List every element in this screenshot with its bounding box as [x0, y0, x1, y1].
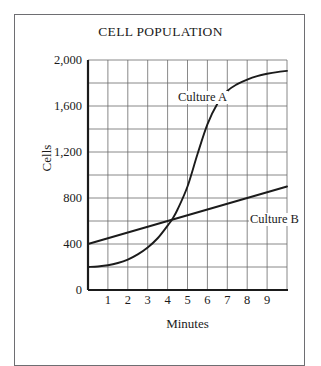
y-tick-label: 2,000	[54, 53, 82, 68]
x-tick-label: 2	[118, 293, 138, 308]
x-tick-label: 4	[158, 293, 178, 308]
y-tick-label: 400	[63, 237, 82, 252]
y-axis-title: Cells	[39, 128, 59, 188]
x-tick-label: 8	[237, 293, 257, 308]
x-tick-label: 6	[197, 293, 217, 308]
y-tick-label: 800	[63, 191, 82, 206]
y-tick-label: 0	[76, 283, 82, 298]
x-tick-label: 7	[217, 293, 237, 308]
x-tick-label: 9	[257, 293, 277, 308]
x-axis-title: Minutes	[88, 316, 287, 332]
series-label-culture-b: Culture B	[249, 213, 300, 226]
x-tick-label: 5	[178, 293, 198, 308]
x-axis-tick-labels: 1 2 3 4 5 6 7 8 9	[88, 293, 287, 311]
y-tick-label: 1,600	[54, 99, 82, 114]
x-tick-label: 1	[98, 293, 118, 308]
x-tick-label: 3	[138, 293, 158, 308]
series-label-culture-a: Culture A	[177, 91, 228, 104]
